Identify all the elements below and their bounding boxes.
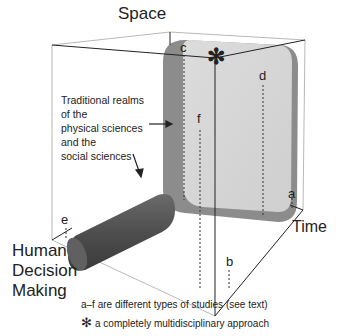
annotation-line: and the — [61, 135, 144, 149]
axis-label-line: Human — [12, 241, 77, 261]
annotation-line: Traditional realms — [61, 93, 144, 107]
axis-label-line: Decision — [12, 261, 77, 281]
multidisciplinary-cube-diagram: Space Time Human Decision Making Traditi… — [0, 0, 340, 336]
study-label-e: e — [61, 212, 68, 227]
study-label-d: d — [259, 68, 266, 83]
study-label-b: b — [226, 254, 233, 269]
axis-label-time: Time — [292, 218, 327, 236]
slab-block — [163, 40, 298, 222]
legend-line-multidisciplinary: ✻a completely multidisciplinary approach — [81, 315, 269, 330]
axis-label-space: Space — [118, 4, 166, 24]
cylinder-shape — [63, 194, 175, 273]
star-icon: ✻ — [81, 315, 92, 330]
axis-label-human-decision-making: Human Decision Making — [12, 241, 77, 301]
annotation-line: of the — [61, 107, 144, 121]
multidisciplinary-star-icon: ✻ — [207, 44, 225, 70]
study-label-a: a — [288, 186, 295, 201]
study-label-c: c — [180, 40, 187, 55]
study-label-f: f — [197, 111, 201, 126]
legend-text: a completely multidisciplinary approach — [95, 318, 269, 329]
axis-label-line: Making — [12, 281, 77, 301]
annotation-line: social sciences — [61, 149, 144, 163]
legend-line-studies: a–f are different types of studies (see … — [81, 299, 268, 310]
annotation-line: physical sciences — [61, 121, 144, 135]
traditional-realms-annotation: Traditional realms of the physical scien… — [61, 93, 144, 163]
